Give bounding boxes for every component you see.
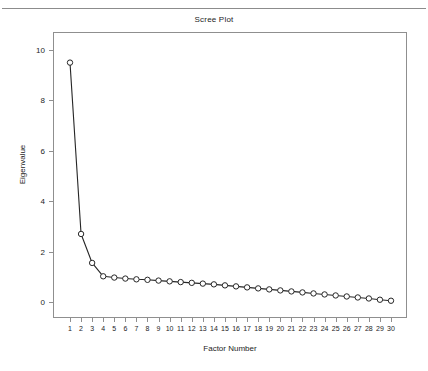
x-tick-label: 30 — [383, 325, 399, 332]
y-tick-label: 2 — [17, 247, 45, 256]
x-tick-mark — [247, 318, 248, 322]
x-tick-mark — [358, 318, 359, 322]
y-tick-mark — [49, 252, 53, 253]
x-tick-mark — [170, 318, 171, 322]
x-tick-mark — [369, 318, 370, 322]
x-tick-mark — [236, 318, 237, 322]
y-tick-mark — [49, 201, 53, 202]
scree-plot-figure: Scree Plot Eigenvalue Factor Number 0246… — [0, 0, 428, 371]
x-tick-mark — [347, 318, 348, 322]
y-tick-mark — [49, 50, 53, 51]
x-tick-mark — [314, 318, 315, 322]
x-tick-mark — [203, 318, 204, 322]
y-tick-label: 4 — [17, 197, 45, 206]
y-tick-label: 10 — [17, 46, 45, 55]
x-tick-mark — [269, 318, 270, 322]
page-top-divider — [2, 8, 426, 9]
x-tick-mark — [159, 318, 160, 322]
x-tick-mark — [214, 318, 215, 322]
x-tick-mark — [391, 318, 392, 322]
x-tick-mark — [125, 318, 126, 322]
y-tick-label: 8 — [17, 96, 45, 105]
x-tick-mark — [291, 318, 292, 322]
x-tick-mark — [325, 318, 326, 322]
x-tick-mark — [103, 318, 104, 322]
x-tick-mark — [302, 318, 303, 322]
x-tick-mark — [336, 318, 337, 322]
x-tick-mark — [225, 318, 226, 322]
chart-title: Scree Plot — [0, 15, 428, 24]
x-tick-mark — [92, 318, 93, 322]
x-tick-mark — [258, 318, 259, 322]
y-axis-label: Eigenvalue — [18, 125, 27, 205]
plot-area — [53, 32, 407, 318]
y-tick-label: 0 — [17, 298, 45, 307]
y-tick-mark — [49, 302, 53, 303]
x-axis-label: Factor Number — [53, 344, 407, 353]
x-tick-mark — [280, 318, 281, 322]
y-tick-mark — [49, 151, 53, 152]
x-tick-mark — [192, 318, 193, 322]
x-tick-mark — [70, 318, 71, 322]
y-tick-mark — [49, 100, 53, 101]
y-tick-label: 6 — [17, 146, 45, 155]
x-tick-mark — [81, 318, 82, 322]
x-tick-mark — [380, 318, 381, 322]
x-tick-mark — [114, 318, 115, 322]
x-tick-mark — [136, 318, 137, 322]
x-tick-mark — [181, 318, 182, 322]
x-tick-mark — [147, 318, 148, 322]
